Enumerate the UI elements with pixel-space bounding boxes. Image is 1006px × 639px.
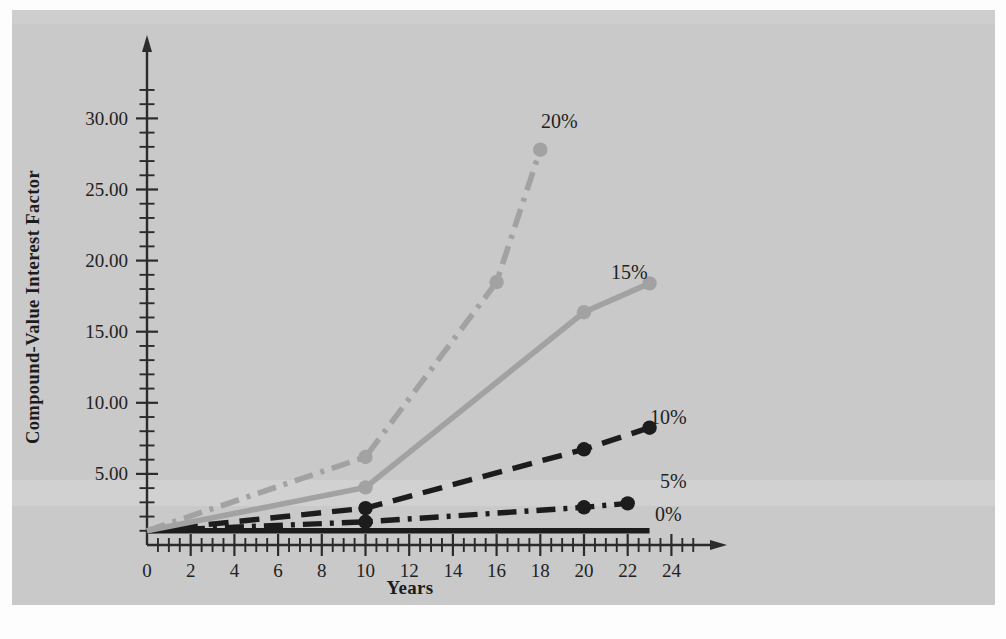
y-tick-label: 25.00 xyxy=(85,179,128,200)
y-tick-label: 15.00 xyxy=(85,321,128,342)
x-tick-label: 20 xyxy=(575,560,594,581)
series-marker-5pct xyxy=(577,500,591,514)
series-line-15pct xyxy=(147,283,650,530)
x-tick-label: 24 xyxy=(662,560,682,581)
y-tick-label: 30.00 xyxy=(85,108,128,129)
y-tick-label: 5.00 xyxy=(95,463,128,484)
x-tick-label: 14 xyxy=(443,560,463,581)
series-marker-20pct xyxy=(533,142,547,156)
series-line-20pct xyxy=(147,150,540,531)
series-end-label: 10% xyxy=(650,406,687,428)
series-marker-15pct xyxy=(358,480,372,494)
x-tick-label: 2 xyxy=(186,560,196,581)
series-label-group: 20%15%10%5%0% xyxy=(541,110,687,525)
x-tick-label: 16 xyxy=(487,560,506,581)
chart-canvas: 5.0010.0015.0020.0025.0030.00 0246810121… xyxy=(0,0,1006,639)
series-marker-5pct xyxy=(621,496,635,510)
figure-root: Compound-Value Interest Factor 5.0010.00… xyxy=(0,0,1006,639)
series-marker-15pct xyxy=(577,305,591,319)
series-marker-10pct xyxy=(358,501,372,515)
x-tick-label: 18 xyxy=(531,560,550,581)
series-end-label: 15% xyxy=(611,261,648,283)
y-tick-label: 10.00 xyxy=(85,392,128,413)
series-end-label: 0% xyxy=(655,503,682,525)
x-tick-label: 4 xyxy=(230,560,240,581)
series-end-label: 20% xyxy=(541,110,578,132)
series-marker-20pct xyxy=(358,450,372,464)
series-marker-10pct xyxy=(577,442,591,456)
series-marker-5pct xyxy=(358,515,372,529)
data-series-group xyxy=(147,142,657,530)
axes-group xyxy=(142,35,727,550)
x-tick-label: 8 xyxy=(317,560,327,581)
x-tick-label: 0 xyxy=(142,560,152,581)
x-axis-arrowhead xyxy=(710,540,727,550)
y-tick-label: 20.00 xyxy=(85,250,128,271)
x-tick-label: 22 xyxy=(618,560,637,581)
x-tick-label: 10 xyxy=(356,560,375,581)
y-axis-arrowhead xyxy=(142,35,152,52)
series-marker-20pct xyxy=(489,275,503,289)
x-tick-label: 6 xyxy=(273,560,283,581)
x-tick-group: 024681012141618202224 xyxy=(142,534,693,581)
series-end-label: 5% xyxy=(660,470,687,492)
x-axis-title: Years xyxy=(387,577,434,598)
